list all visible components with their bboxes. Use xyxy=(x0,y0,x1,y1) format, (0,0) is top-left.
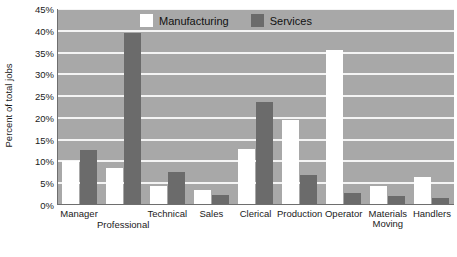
bar-group xyxy=(322,9,366,205)
x-axis-label: Manager xyxy=(60,209,98,219)
y-axis-tick-label: 0% xyxy=(40,200,54,211)
bar-group xyxy=(145,9,189,205)
y-axis-title-text: Percent of total jobs xyxy=(4,63,15,147)
legend-label: Services xyxy=(270,15,312,27)
bar-services xyxy=(124,33,141,205)
y-axis-tick-label: 25% xyxy=(35,91,54,102)
chart-legend: ManufacturingServices xyxy=(140,14,312,27)
bar-services xyxy=(256,102,273,205)
y-axis-tick-label: 45% xyxy=(35,4,54,15)
y-axis-tick-label: 20% xyxy=(35,112,54,123)
bar-services xyxy=(80,150,97,205)
x-axis-label: Clerical xyxy=(240,209,272,219)
bar-manufacturing xyxy=(370,186,387,205)
bar-services xyxy=(300,175,317,205)
legend-item-services[interactable]: Services xyxy=(251,14,312,27)
y-axis-tick-label: 40% xyxy=(35,25,54,36)
bar-manufacturing xyxy=(282,120,299,205)
x-axis-label: Handlers xyxy=(413,209,451,219)
x-axis-baseline xyxy=(57,204,454,205)
y-axis-tick-labels: 45%40%35%30%25%20%15%10%5%0% xyxy=(16,9,54,205)
legend-swatch-icon xyxy=(251,14,264,27)
x-axis-label: Materials Moving xyxy=(362,209,414,229)
legend-item-manufacturing[interactable]: Manufacturing xyxy=(140,14,229,27)
bar-manufacturing xyxy=(194,190,211,205)
bar-chart: Percent of total jobs 45%40%35%30%25%20%… xyxy=(0,0,457,257)
x-axis-label: Technical xyxy=(147,209,187,219)
y-axis-tick-label: 5% xyxy=(40,178,54,189)
bar-group xyxy=(57,9,101,205)
x-axis-label: Production xyxy=(277,209,322,219)
legend-label: Manufacturing xyxy=(159,15,229,27)
bar-services xyxy=(168,172,185,205)
bar-manufacturing xyxy=(238,149,255,205)
bars-layer xyxy=(57,9,454,205)
x-axis-label: Sales xyxy=(199,209,223,219)
y-axis-tick-label: 10% xyxy=(35,156,54,167)
bar-group xyxy=(101,9,145,205)
bar-manufacturing xyxy=(106,168,123,205)
y-axis-line xyxy=(57,9,58,205)
y-axis-title: Percent of total jobs xyxy=(2,0,16,210)
bar-manufacturing xyxy=(62,161,79,205)
x-axis-label: Professional xyxy=(97,220,149,230)
bar-group xyxy=(189,9,233,205)
bar-manufacturing xyxy=(414,177,431,205)
bar-manufacturing xyxy=(326,50,343,205)
y-axis-tick-label: 30% xyxy=(35,69,54,80)
y-axis-tick-label: 15% xyxy=(35,134,54,145)
y-axis-tick-label: 35% xyxy=(35,47,54,58)
bar-group xyxy=(278,9,322,205)
bar-manufacturing xyxy=(150,186,167,205)
bar-group xyxy=(410,9,454,205)
x-axis-category-labels: ManagerProfessionalTechnicalSalesClerica… xyxy=(57,207,454,249)
legend-swatch-icon xyxy=(140,14,153,27)
bar-group xyxy=(233,9,277,205)
x-axis-label: Operator xyxy=(325,209,363,219)
bar-group xyxy=(366,9,410,205)
plot-area xyxy=(57,9,454,205)
